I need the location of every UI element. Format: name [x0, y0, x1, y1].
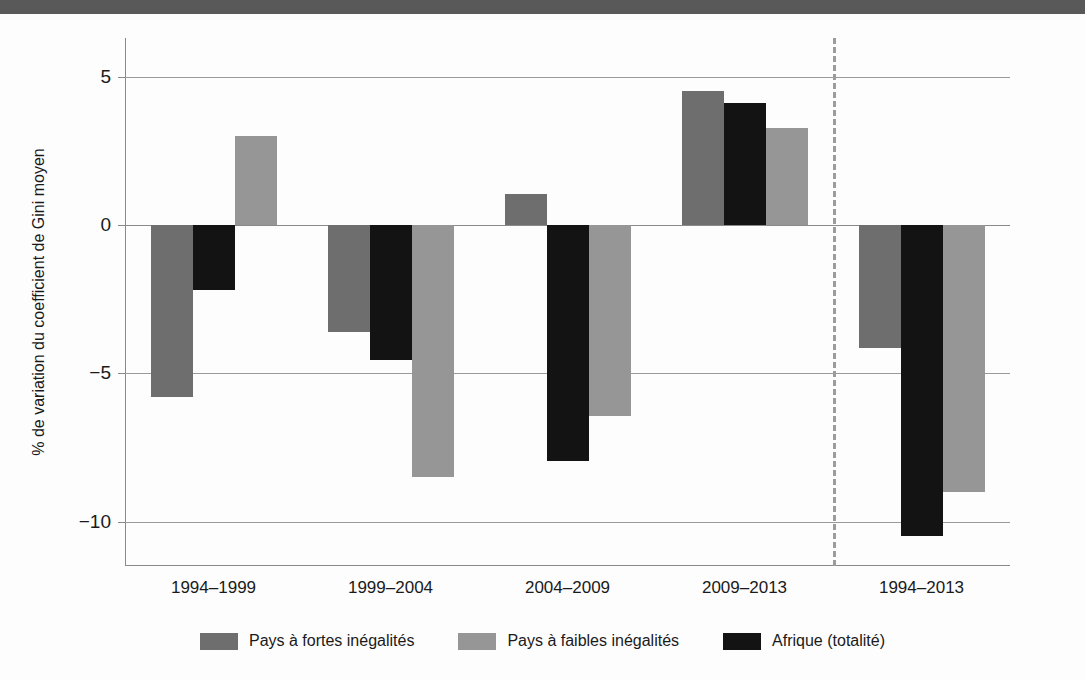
legend-item[interactable]: Pays à fortes inégalités [200, 632, 414, 650]
legend-swatch-icon [458, 633, 496, 650]
y-tick-label: −10 [79, 511, 111, 533]
bar [328, 225, 370, 332]
legend-swatch-icon [200, 633, 238, 650]
x-tick-label: 1999–2004 [348, 578, 433, 598]
bar [724, 103, 766, 225]
legend-item[interactable]: Pays à faibles inégalités [458, 632, 679, 650]
y-tick-label: 0 [100, 214, 111, 236]
legend-swatch-icon [723, 633, 761, 650]
bar [901, 225, 943, 536]
bar [235, 136, 277, 225]
bar [370, 225, 412, 360]
period-separator-line [833, 38, 836, 566]
legend-label: Pays à fortes inégalités [249, 632, 414, 650]
legend-item[interactable]: Afrique (totalité) [723, 632, 885, 650]
y-tick-mark [118, 77, 125, 78]
bar [682, 91, 724, 224]
gridline-neg10: −10 [125, 522, 1010, 523]
y-axis-title: % de variation du coefficient de Gini mo… [28, 38, 50, 566]
bar [505, 194, 547, 225]
x-tick-label: 1994–2013 [879, 578, 964, 598]
x-tick-label: 2009–2013 [702, 578, 787, 598]
bar [412, 225, 454, 477]
legend-label: Pays à faibles inégalités [507, 632, 679, 650]
gridline-5: 5 [125, 77, 1010, 78]
legend-label: Afrique (totalité) [772, 632, 885, 650]
chart-page: % de variation du coefficient de Gini mo… [0, 0, 1085, 680]
plot-area: 50−5−10 [125, 38, 1010, 566]
top-banner-strip [0, 0, 1085, 14]
y-tick-label: −5 [89, 362, 111, 384]
y-tick-mark [118, 373, 125, 374]
bar [943, 225, 985, 492]
y-tick-mark [118, 522, 125, 523]
y-tick-mark [118, 225, 125, 226]
bar [766, 128, 808, 224]
x-tick-label: 2004–2009 [525, 578, 610, 598]
bar [193, 225, 235, 290]
bar [859, 225, 901, 348]
bar [589, 225, 631, 416]
chart-legend: Pays à fortes inégalitésPays à faibles i… [0, 632, 1085, 650]
x-tick-label: 1994–1999 [171, 578, 256, 598]
y-tick-label: 5 [100, 66, 111, 88]
bar [151, 225, 193, 397]
bar [547, 225, 589, 461]
